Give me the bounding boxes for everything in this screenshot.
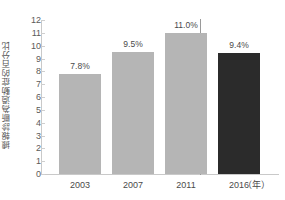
- y-axis-tick-label: 3: [21, 131, 41, 140]
- y-axis-tick-mark: [41, 110, 45, 111]
- bar-value-label-2016: 9.4%: [212, 41, 266, 50]
- y-axis-tick-mark: [41, 148, 45, 149]
- bar-value-label-2007: 9.5%: [106, 40, 160, 49]
- y-axis-tick-mark: [41, 161, 45, 162]
- y-axis-tick-mark: [41, 174, 45, 175]
- y-axis-tick-label: 5: [21, 105, 41, 114]
- y-axis-tick-mark: [41, 59, 45, 60]
- y-axis-tick-mark: [41, 136, 45, 137]
- bar-2007[interactable]: [112, 52, 154, 174]
- y-axis-tick-label: 10: [21, 41, 41, 50]
- y-axis-tick-mark: [41, 33, 45, 34]
- bar-2011[interactable]: [165, 33, 207, 174]
- y-axis-tick-mark: [41, 71, 45, 72]
- x-axis-tick-label-2016: 2016: [212, 180, 266, 190]
- bar-chart: 據報診斷為過動症的百分比 0123456789101112 （年） 7.8%20…: [0, 0, 285, 200]
- bar-value-label-2011: 11.0%: [159, 21, 213, 30]
- x-axis-tick-label-2003: 2003: [53, 180, 107, 190]
- bar-2016[interactable]: [218, 53, 260, 174]
- y-axis-tick-label: 2: [21, 144, 41, 153]
- y-axis-tick-mark: [41, 123, 45, 124]
- y-axis-tick-label: 12: [21, 16, 41, 25]
- y-axis-tick-label: 6: [21, 93, 41, 102]
- x-axis-line: [41, 174, 279, 175]
- y-axis-tick-label: 8: [21, 67, 41, 76]
- bar-value-label-2003: 7.8%: [53, 62, 107, 71]
- y-axis-tick-label: 11: [21, 28, 41, 37]
- y-axis-tick-label: 9: [21, 54, 41, 63]
- y-axis-title-text: 據報診斷為過動症的百分比: [3, 41, 13, 149]
- y-axis-tick-mark: [41, 46, 45, 47]
- y-axis-tick-label: 0: [21, 170, 41, 179]
- y-axis-tick-label: 4: [21, 118, 41, 127]
- y-axis-title: 據報診斷為過動症的百分比: [0, 14, 16, 176]
- x-axis-tick-label-2007: 2007: [106, 180, 160, 190]
- bar-2003[interactable]: [59, 74, 101, 174]
- y-axis-tick-labels: 0123456789101112: [17, 0, 41, 200]
- x-axis-tick-label-2011: 2011: [159, 180, 213, 190]
- y-axis-tick-label: 7: [21, 80, 41, 89]
- y-axis-tick-mark: [41, 84, 45, 85]
- y-axis-tick-label: 1: [21, 157, 41, 166]
- y-axis-tick-mark: [41, 97, 45, 98]
- y-axis-tick-mark: [41, 20, 45, 21]
